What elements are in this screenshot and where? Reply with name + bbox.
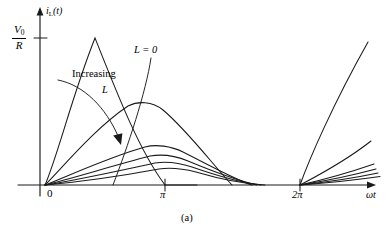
y-axis-arrowhead xyxy=(37,7,44,16)
leader-line-L-zero xyxy=(113,58,151,185)
waveform-plot xyxy=(0,0,391,240)
annotation-increasing-variable: L xyxy=(102,85,108,96)
annotation-l-equals-zero: L = 0 xyxy=(134,45,157,56)
curve-L-zero xyxy=(45,38,165,185)
x-tick-label-2pi: 2π xyxy=(292,190,303,201)
fraction-numerator: V0 xyxy=(12,24,26,39)
x-tick-label-0: 0 xyxy=(47,188,53,199)
curve-L-zero-period2 xyxy=(300,42,368,185)
annotation-increasing: Increasing xyxy=(72,69,116,80)
increasing-L-arrow xyxy=(58,80,118,136)
x-tick-label-pi: π xyxy=(160,190,165,201)
y-axis-tick-label-v0-over-r: V0 R xyxy=(12,24,26,51)
figure-inductor-current-waveforms: iL(t) V0 R L = 0 Increasing L 0 π 2π ωt … xyxy=(0,0,391,240)
figure-caption: (a) xyxy=(181,213,193,224)
y-axis-label-argument: (t) xyxy=(53,5,62,16)
x-axis-arrowhead xyxy=(367,181,376,188)
fraction-denominator: R xyxy=(12,39,26,51)
x-axis-label: ωt xyxy=(366,190,376,200)
increasing-L-arrowhead xyxy=(113,133,122,145)
y-axis-label: iL(t) xyxy=(46,6,62,18)
curve-L3-period2 xyxy=(300,169,376,185)
